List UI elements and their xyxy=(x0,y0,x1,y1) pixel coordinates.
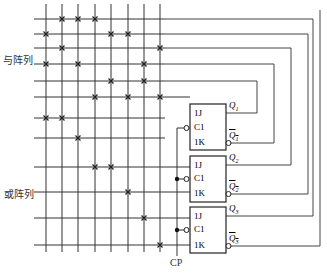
grid-lines xyxy=(34,4,190,252)
ff2-k-label: 1K xyxy=(194,188,205,198)
ff1-c-label: C1 xyxy=(194,122,205,132)
clock-junction-dot xyxy=(175,177,179,181)
clock-junction-dot xyxy=(175,228,179,232)
ff1-qbar-label: Q1 xyxy=(229,130,239,142)
flipflop-3 xyxy=(184,207,231,253)
ff3-c-label: C1 xyxy=(194,224,205,234)
pla-circuit-diagram xyxy=(0,0,327,273)
ff2-c-label: C1 xyxy=(194,173,205,183)
and-array-label: 与阵列 xyxy=(3,52,33,67)
ff3-q-label: Q3 xyxy=(229,203,239,215)
flipflop-2 xyxy=(184,156,231,202)
clock-label: CP xyxy=(170,257,182,268)
ff3-qbar-label: Q3 xyxy=(229,233,239,245)
ff2-j-label: 1J xyxy=(194,160,202,170)
ff1-k-label: 1K xyxy=(194,137,205,147)
ff2-q-label: Q2 xyxy=(229,152,239,164)
flipflop-1 xyxy=(184,104,231,150)
ff1-j-label: 1J xyxy=(194,108,202,118)
or-array-label: 或阵列 xyxy=(4,186,34,201)
ff2-qbar-label: Q2 xyxy=(229,181,239,193)
ff1-q-label: Q1 xyxy=(229,100,239,112)
ff3-j-label: 1J xyxy=(194,211,202,221)
ff3-k-label: 1K xyxy=(194,240,205,250)
programmed-connections xyxy=(44,17,163,248)
